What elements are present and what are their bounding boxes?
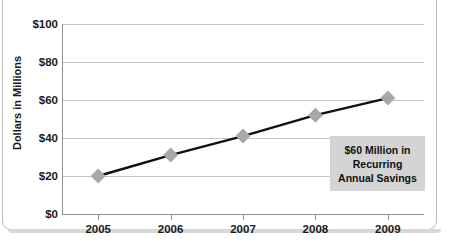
annotation-line-3: Annual Savings — [338, 171, 417, 185]
data-point-marker — [236, 129, 251, 144]
annotation-callout: $60 Million in Recurring Annual Savings — [330, 136, 425, 191]
annotation-line-2: Recurring — [353, 157, 403, 171]
data-series-layer — [0, 0, 449, 250]
data-point-marker — [91, 169, 106, 184]
data-point-marker — [308, 108, 323, 123]
data-point-marker — [380, 91, 395, 106]
annotation-line-1: $60 Million in — [345, 143, 411, 157]
data-point-marker — [163, 148, 178, 163]
